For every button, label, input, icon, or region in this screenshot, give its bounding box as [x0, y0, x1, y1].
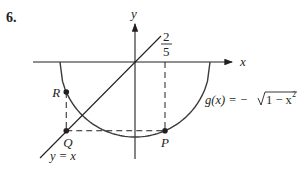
point-r-label: R — [51, 85, 60, 100]
diagram: 6. x y 2 5 P Q R g(x) = − 1 − x 2 y = x — [0, 0, 303, 173]
problem-number: 6. — [6, 10, 17, 25]
point-p-label: P — [160, 135, 169, 150]
fraction-numerator: 2 — [163, 29, 170, 44]
point-q-label: Q — [63, 135, 73, 150]
point-p — [162, 128, 168, 134]
line-label: y = x — [48, 149, 76, 163]
point-r — [63, 89, 69, 95]
curve-label: g(x) = − 1 − x 2 — [205, 90, 297, 107]
curve-label-radicand: 1 − x — [266, 93, 293, 107]
y-axis-label: y — [129, 6, 137, 21]
tick-label-two-fifths: 2 5 — [161, 29, 172, 59]
x-axis-label: x — [239, 54, 246, 69]
curve-label-prefix: g(x) = − — [205, 93, 248, 107]
fraction-denominator: 5 — [163, 44, 170, 59]
point-q — [63, 128, 69, 134]
curve-label-exponent: 2 — [292, 90, 296, 99]
